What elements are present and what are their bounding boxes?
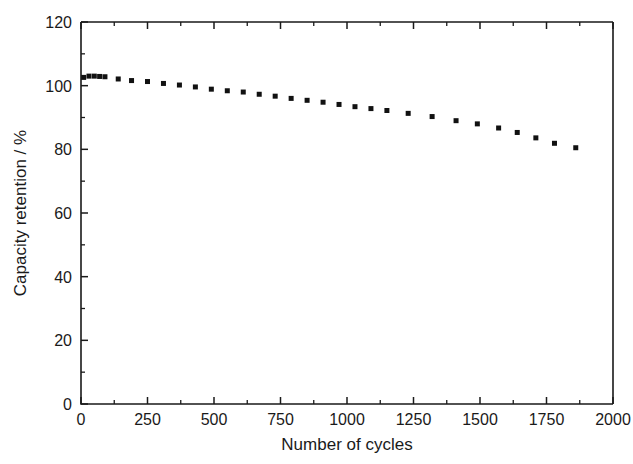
data-point-marker bbox=[352, 104, 357, 109]
x-tick-label: 2000 bbox=[595, 411, 631, 428]
data-point-marker bbox=[430, 114, 435, 119]
data-point-marker bbox=[81, 75, 86, 80]
data-point-marker bbox=[496, 126, 501, 131]
data-point-marker bbox=[97, 74, 102, 79]
x-tick-label: 1250 bbox=[396, 411, 432, 428]
y-tick-label: 0 bbox=[63, 396, 72, 413]
data-point-marker bbox=[321, 100, 326, 105]
data-point-marker bbox=[129, 78, 134, 83]
x-tick-label: 1500 bbox=[462, 411, 498, 428]
chart-figure: 025050075010001250150017502000 020406080… bbox=[0, 0, 633, 464]
data-point-marker bbox=[145, 79, 150, 84]
y-axis-title: Capacity retention / % bbox=[11, 130, 30, 296]
y-tick-label: 40 bbox=[54, 269, 72, 286]
data-point-marker bbox=[193, 84, 198, 89]
data-point-marker bbox=[273, 94, 278, 99]
data-point-marker bbox=[552, 141, 557, 146]
x-tick-label: 250 bbox=[134, 411, 161, 428]
capacity-retention-scatter-chart: 025050075010001250150017502000 020406080… bbox=[0, 0, 633, 464]
x-tick-label: 500 bbox=[201, 411, 228, 428]
data-point-marker bbox=[337, 102, 342, 107]
data-point-marker bbox=[515, 130, 520, 135]
data-point-marker bbox=[92, 74, 97, 79]
data-point-marker bbox=[177, 83, 182, 88]
x-tick-label: 0 bbox=[77, 411, 86, 428]
data-point-marker bbox=[475, 121, 480, 126]
data-point-marker bbox=[86, 74, 91, 79]
x-tick-label: 750 bbox=[267, 411, 294, 428]
x-tick-label: 1750 bbox=[529, 411, 565, 428]
y-tick-label: 60 bbox=[54, 205, 72, 222]
data-point-marker bbox=[454, 118, 459, 123]
data-point-marker bbox=[289, 96, 294, 101]
data-point-marker bbox=[573, 145, 578, 150]
chart-background bbox=[0, 0, 633, 464]
data-point-marker bbox=[257, 92, 262, 97]
data-point-marker bbox=[102, 74, 107, 79]
y-tick-label: 120 bbox=[45, 14, 72, 31]
data-point-marker bbox=[161, 81, 166, 86]
y-tick-label: 100 bbox=[45, 78, 72, 95]
data-point-marker bbox=[209, 87, 214, 92]
x-tick-label: 1000 bbox=[329, 411, 365, 428]
data-point-marker bbox=[116, 76, 121, 81]
y-tick-label: 20 bbox=[54, 332, 72, 349]
data-point-marker bbox=[305, 98, 310, 103]
x-axis-tick-labels: 025050075010001250150017502000 bbox=[77, 411, 631, 428]
x-axis-title: Number of cycles bbox=[281, 435, 412, 454]
data-point-marker bbox=[225, 88, 230, 93]
y-tick-label: 80 bbox=[54, 141, 72, 158]
data-point-marker bbox=[368, 106, 373, 111]
data-point-marker bbox=[406, 111, 411, 116]
data-point-marker bbox=[384, 108, 389, 113]
data-point-marker bbox=[533, 135, 538, 140]
data-point-marker bbox=[241, 90, 246, 95]
